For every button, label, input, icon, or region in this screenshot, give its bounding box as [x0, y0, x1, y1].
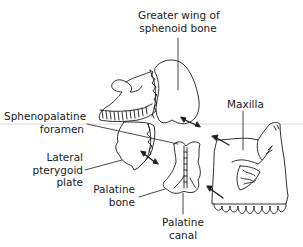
label-lateral-pterygoid-line3: plate — [4, 176, 83, 189]
label-greater-wing-line2: sphenoid bone — [138, 22, 218, 35]
label-palatine-bone-line2: bone — [80, 196, 135, 209]
label-palatine-canal-line1: Palatine — [160, 216, 206, 229]
leader-lateral-pterygoid — [85, 160, 122, 170]
label-sphenopalatine-foramen: Sphenopalatine foramen — [4, 110, 84, 135]
label-sphenopalatine-line2: foramen — [4, 123, 84, 136]
label-greater-wing-line1: Greater wing of — [138, 9, 218, 22]
label-palatine-canal-line2: canal — [160, 229, 206, 242]
label-palatine-bone: Palatine bone — [80, 183, 135, 208]
maxilla-drawing — [207, 123, 288, 214]
label-palatine-bone-line1: Palatine — [80, 183, 135, 196]
label-sphenopalatine-line1: Sphenopalatine — [4, 110, 84, 123]
label-maxilla: Maxilla — [227, 98, 264, 111]
label-maxilla-line1: Maxilla — [227, 98, 264, 111]
palatine-bone-drawing — [163, 142, 200, 193]
label-lateral-pterygoid-line2: pterygoid — [4, 164, 83, 177]
label-greater-wing: Greater wing of sphenoid bone — [138, 9, 218, 34]
pterygoid-plate-drawing — [116, 122, 158, 170]
sphenoid-bone-drawing — [99, 60, 200, 127]
label-lateral-pterygoid-line1: Lateral — [4, 151, 83, 164]
leader-palatine-bone — [139, 189, 165, 197]
anatomy-diagram: Greater wing of sphenoid bone Maxilla Sp… — [0, 0, 303, 247]
label-palatine-canal: Palatine canal — [160, 216, 206, 241]
label-lateral-pterygoid-plate: Lateral pterygoid plate — [4, 151, 83, 189]
